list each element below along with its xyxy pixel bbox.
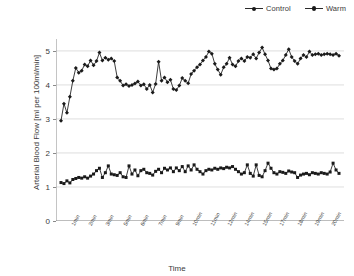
- data-point: [196, 168, 199, 171]
- y-tick-label: 0: [34, 217, 50, 226]
- data-point: [110, 173, 113, 176]
- data-point: [313, 52, 317, 56]
- y-tick-label: 4: [34, 80, 50, 89]
- data-point: [293, 171, 296, 174]
- data-point: [74, 177, 77, 180]
- data-point: [136, 174, 139, 177]
- data-point: [157, 168, 160, 171]
- data-point: [190, 168, 193, 171]
- data-point: [328, 52, 332, 56]
- series-line: [61, 48, 339, 121]
- data-point: [323, 172, 326, 175]
- data-point: [269, 167, 272, 170]
- data-point: [284, 172, 287, 175]
- data-point: [329, 171, 332, 174]
- data-point: [272, 171, 275, 174]
- data-point: [128, 164, 131, 167]
- data-point: [116, 174, 119, 177]
- data-point: [172, 170, 175, 173]
- data-point: [284, 53, 288, 57]
- data-point: [311, 171, 314, 174]
- data-point: [287, 169, 290, 172]
- data-point: [178, 169, 181, 172]
- data-point: [89, 58, 93, 62]
- data-point: [249, 172, 252, 175]
- data-point: [92, 173, 95, 176]
- data-point: [228, 56, 232, 60]
- data-point: [187, 164, 190, 167]
- data-point: [160, 171, 163, 174]
- y-tick-mark: [53, 221, 56, 222]
- data-point: [332, 162, 335, 165]
- data-point: [322, 52, 326, 56]
- legend-entry-control[interactable]: Control: [245, 4, 291, 13]
- series-warm: [59, 46, 341, 123]
- plot-area: [56, 39, 344, 221]
- data-point: [125, 176, 128, 179]
- data-point: [148, 172, 151, 175]
- data-point: [216, 68, 220, 72]
- data-point: [60, 181, 63, 184]
- data-point: [163, 167, 166, 170]
- data-point: [267, 162, 270, 165]
- data-point: [151, 174, 154, 177]
- data-point: [261, 175, 264, 178]
- chart-legend: Control Warm: [245, 4, 346, 13]
- data-point: [139, 169, 142, 172]
- data-point: [77, 176, 80, 179]
- data-point: [119, 171, 122, 174]
- data-point: [335, 168, 338, 171]
- data-point: [255, 163, 258, 166]
- legend-marker-warm-icon: [305, 5, 323, 12]
- data-point: [65, 111, 69, 115]
- data-point: [326, 173, 329, 176]
- data-point: [181, 165, 184, 168]
- data-point: [260, 46, 264, 50]
- data-point: [302, 173, 305, 176]
- data-point: [175, 166, 178, 169]
- data-point: [184, 170, 187, 173]
- data-point: [296, 176, 299, 179]
- data-point: [320, 171, 323, 174]
- data-point: [204, 169, 207, 172]
- data-point: [222, 167, 225, 170]
- data-point: [240, 173, 243, 176]
- data-point: [199, 170, 202, 173]
- data-point: [122, 175, 125, 178]
- data-point: [225, 166, 228, 169]
- data-point: [62, 102, 66, 106]
- data-point: [130, 173, 133, 176]
- series-control: [60, 162, 341, 185]
- data-point: [266, 58, 270, 62]
- data-point: [305, 172, 308, 175]
- data-point: [145, 171, 148, 174]
- data-point: [74, 66, 78, 70]
- data-point: [219, 73, 223, 77]
- data-point: [213, 62, 217, 66]
- data-point: [290, 171, 293, 174]
- data-point: [258, 174, 261, 177]
- data-point: [219, 166, 222, 169]
- data-point: [317, 173, 320, 176]
- plot-svg: [56, 39, 344, 221]
- chart-container: Control Warm Arterial Blood Flow [ml per…: [0, 0, 354, 276]
- x-axis-title: Time: [0, 264, 354, 273]
- data-point: [234, 168, 237, 171]
- data-point: [314, 172, 317, 175]
- y-tick-label: 5: [34, 46, 50, 55]
- data-point: [107, 164, 110, 167]
- data-point: [278, 170, 281, 173]
- data-point: [252, 175, 255, 178]
- data-point: [86, 177, 89, 180]
- data-point: [154, 170, 157, 173]
- legend-entry-warm[interactable]: Warm: [305, 4, 346, 13]
- data-point: [95, 169, 98, 172]
- data-point: [237, 170, 240, 173]
- legend-marker-control-icon: [245, 5, 263, 12]
- data-point: [98, 167, 101, 170]
- data-point: [133, 168, 136, 171]
- data-point: [169, 166, 172, 169]
- data-point: [213, 167, 216, 170]
- data-point: [89, 175, 92, 178]
- data-point: [243, 171, 246, 174]
